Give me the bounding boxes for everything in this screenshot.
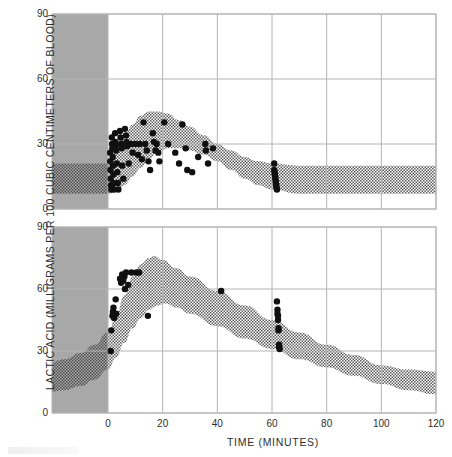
- data-point-bottom-0: [108, 348, 114, 354]
- data-point-top-26: [119, 162, 125, 168]
- data-point-bottom-15: [123, 269, 129, 275]
- data-point-top-59: [202, 141, 208, 147]
- data-point-top-60: [203, 147, 209, 153]
- data-point-bottom-16: [125, 282, 131, 288]
- data-point-bottom-22: [274, 298, 280, 304]
- x-tick-label-0: 0: [93, 418, 123, 429]
- data-point-top-48: [155, 149, 161, 155]
- data-point-top-44: [150, 130, 156, 136]
- data-point-top-41: [144, 147, 150, 153]
- data-point-top-52: [172, 149, 178, 155]
- data-point-top-42: [145, 158, 151, 164]
- data-point-top-32: [126, 160, 132, 166]
- y-tick-label-bottom-30: 30: [22, 345, 48, 356]
- data-point-top-51: [165, 141, 171, 147]
- data-point-top-47: [153, 141, 159, 147]
- data-point-top-54: [179, 121, 185, 127]
- data-point-top-17: [113, 147, 119, 153]
- data-point-top-49: [156, 158, 162, 164]
- data-point-bottom-19: [136, 269, 142, 275]
- y-tick-label-bottom-60: 60: [22, 283, 48, 294]
- plot-svg: [0, 0, 452, 457]
- data-point-bottom-1: [108, 327, 114, 333]
- data-point-top-29: [123, 132, 129, 138]
- data-point-bottom-26: [275, 317, 281, 323]
- page-edge-artifact: [8, 447, 78, 454]
- data-point-top-39: [140, 119, 146, 125]
- data-point-top-40: [142, 141, 148, 147]
- data-point-bottom-4: [110, 304, 116, 310]
- data-point-bottom-28: [275, 327, 281, 333]
- data-point-top-23: [117, 134, 123, 140]
- figure-container: LACTIC ACID (MILLIGRAMS PER 100 CUBIC CE…: [0, 0, 452, 457]
- data-point-top-63: [271, 160, 277, 166]
- data-point-top-58: [195, 154, 201, 160]
- x-axis-label: TIME (MINUTES): [108, 436, 438, 448]
- y-tick-label-top-0: 0: [22, 203, 48, 214]
- data-point-top-43: [147, 167, 153, 173]
- y-tick-label-top-30: 30: [22, 138, 48, 149]
- x-tick-label-40: 40: [202, 418, 232, 429]
- x-tick-label-80: 80: [312, 418, 342, 429]
- data-point-top-25: [118, 145, 124, 151]
- data-point-top-73: [274, 186, 280, 192]
- data-point-top-37: [137, 141, 143, 147]
- data-point-top-34: [129, 149, 135, 155]
- y-tick-label-bottom-90: 90: [22, 221, 48, 232]
- data-point-top-27: [120, 175, 126, 181]
- data-point-bottom-8: [113, 311, 119, 317]
- y-tick-label-bottom-0: 0: [22, 407, 48, 418]
- data-point-top-61: [205, 160, 211, 166]
- x-tick-label-60: 60: [257, 418, 287, 429]
- data-point-top-38: [139, 156, 145, 162]
- data-point-top-20: [115, 180, 121, 186]
- x-tick-label-120: 120: [421, 418, 451, 429]
- data-point-top-21: [115, 186, 121, 192]
- data-point-bottom-21: [218, 288, 224, 294]
- y-tick-label-top-60: 60: [22, 73, 48, 84]
- data-point-top-28: [122, 126, 128, 132]
- data-point-top-53: [176, 160, 182, 166]
- data-point-bottom-20: [145, 313, 151, 319]
- x-tick-label-100: 100: [366, 418, 396, 429]
- data-point-top-19: [114, 169, 120, 175]
- data-point-top-57: [189, 169, 195, 175]
- x-tick-label-20: 20: [148, 418, 178, 429]
- data-point-top-62: [210, 145, 216, 151]
- data-point-top-50: [161, 119, 167, 125]
- data-point-bottom-7: [112, 296, 118, 302]
- data-point-top-55: [182, 145, 188, 151]
- data-point-top-18: [114, 160, 120, 166]
- y-tick-label-top-90: 90: [22, 8, 48, 19]
- data-point-top-9: [109, 154, 115, 160]
- data-point-bottom-31: [276, 346, 282, 352]
